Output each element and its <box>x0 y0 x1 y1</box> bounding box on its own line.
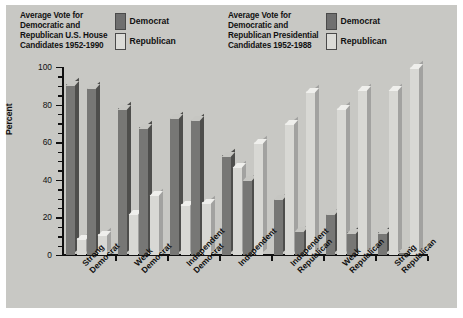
bar <box>243 180 252 255</box>
x-tick <box>115 256 117 261</box>
bar-front-face <box>337 108 346 255</box>
y-tick-major <box>56 217 62 218</box>
y-axis-title: Percent <box>4 103 14 135</box>
bar <box>274 199 283 255</box>
bar-front-face <box>181 204 190 255</box>
legend-presidential-title: Average Vote for Democratic and Republic… <box>228 11 319 51</box>
y-tick-minor <box>58 227 62 228</box>
bar <box>66 84 75 255</box>
y-tick-minor <box>58 189 62 190</box>
x-tick <box>271 256 273 261</box>
y-tick-label: 80 <box>30 100 52 110</box>
bar <box>139 127 148 255</box>
bar-front-face <box>233 167 242 255</box>
legend-house-title: Average Vote for Democratic and Republic… <box>20 11 108 51</box>
bar-front-face <box>358 90 367 255</box>
bar-side-face <box>419 61 423 252</box>
chart-panel: Average Vote for Democratic and Republic… <box>6 5 457 308</box>
bar-front-face <box>222 155 231 255</box>
bar <box>118 108 127 255</box>
bar-group <box>222 67 274 255</box>
bar <box>347 232 356 255</box>
y-tick-label: 100 <box>30 62 52 72</box>
bar <box>326 214 335 255</box>
y-tick-minor <box>58 236 62 237</box>
bar <box>358 90 367 255</box>
republican-swatch-icon <box>115 33 126 50</box>
bar <box>129 214 138 255</box>
bar <box>77 238 86 255</box>
bar-front-face <box>118 108 127 255</box>
y-tick-minor <box>58 95 62 96</box>
bar <box>399 251 408 255</box>
bar <box>191 120 200 255</box>
bar-side-face <box>367 83 371 252</box>
bar-front-face <box>87 88 96 255</box>
bar-side-face <box>211 196 215 252</box>
bar-side-face <box>159 189 163 252</box>
bar-group <box>118 67 170 255</box>
legend-presidential: Average Vote for Democratic and Republic… <box>228 11 387 51</box>
bar <box>306 91 315 255</box>
republican-swatch-icon <box>326 33 337 50</box>
bar <box>181 204 190 255</box>
legend-item-republican-pres: Republican <box>326 31 387 51</box>
x-tick <box>323 256 325 261</box>
bar-front-face <box>139 127 148 255</box>
y-tick-label: 0 <box>30 250 52 260</box>
y-tick-minor <box>58 170 62 171</box>
x-tick <box>375 256 377 261</box>
bar-front-face <box>254 142 263 255</box>
legend-label-republican-pres: Republican <box>341 36 387 46</box>
bar-front-face <box>66 84 75 255</box>
bar-side-face <box>263 136 267 252</box>
legend-item-democrat-pres: Democrat <box>326 11 387 31</box>
bar <box>285 123 294 255</box>
y-tick-minor <box>58 76 62 77</box>
x-tick <box>167 256 169 261</box>
bar <box>337 108 346 255</box>
bar-group <box>66 67 118 255</box>
y-tick-major <box>56 142 62 143</box>
y-tick-label: 60 <box>30 137 52 147</box>
bar-front-face <box>98 234 107 255</box>
bar-front-face <box>347 232 356 255</box>
legend-label-democrat-pres: Democrat <box>341 16 381 26</box>
y-tick-major <box>56 105 62 106</box>
bar <box>98 234 107 255</box>
y-tick-minor <box>58 161 62 162</box>
bar-group <box>326 67 378 255</box>
bar-side-face <box>315 85 319 252</box>
y-tick-minor <box>58 208 62 209</box>
bar-front-face <box>410 67 419 255</box>
bar-side-face <box>398 83 402 252</box>
bar-front-face <box>202 202 211 255</box>
bar-front-face <box>129 214 138 255</box>
x-tick <box>427 256 429 261</box>
bar-front-face <box>191 120 200 255</box>
bar <box>254 142 263 255</box>
bar-front-face <box>170 118 179 255</box>
y-tick-minor <box>58 199 62 200</box>
bar <box>87 88 96 255</box>
bar-front-face <box>326 214 335 255</box>
y-tick-minor <box>58 114 62 115</box>
y-tick-minor <box>58 86 62 87</box>
bar-front-face <box>285 123 294 255</box>
bar-side-face <box>75 78 79 252</box>
bar-front-face <box>150 195 159 255</box>
bar-front-face <box>389 90 398 255</box>
y-tick-label: 20 <box>30 212 52 222</box>
legend-item-democrat: Democrat <box>115 11 176 31</box>
bar <box>202 202 211 255</box>
y-tick-major <box>56 67 62 68</box>
bar-group <box>274 67 326 255</box>
legend-presidential-keys: Democrat Republican <box>326 11 387 51</box>
y-tick-minor <box>58 246 62 247</box>
bar-group <box>378 67 430 255</box>
y-tick-major <box>56 180 62 181</box>
plot-area <box>63 67 427 255</box>
y-tick-minor <box>58 133 62 134</box>
bar-front-face <box>77 238 86 255</box>
bar <box>170 118 179 255</box>
